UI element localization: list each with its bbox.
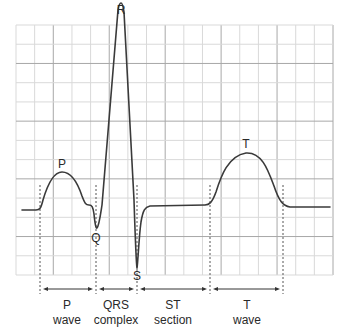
arrowhead-icon [213,287,218,291]
qrs-complex-label-line1: QRS [94,298,139,312]
p-wave-label-line1: P [53,298,81,312]
st-section-label-line2: section [154,313,192,327]
t-wave-label-line1: T [233,298,261,312]
ecg-trace [22,3,330,268]
peak-label-t: T [242,138,249,150]
st-section-label: STsection [154,298,192,327]
peak-label-p: P [58,158,66,170]
p-wave-label: Pwave [53,298,81,327]
ecg-grid-paper [16,25,333,275]
t-wave-label: Twave [233,298,261,327]
qrs-complex-label: QRScomplex [94,298,139,327]
t-wave-label-line2: wave [233,313,261,327]
arrowhead-icon [275,287,280,291]
arrowhead-icon [99,287,104,291]
arrowhead-icon [88,287,93,291]
ecg-diagram [0,0,350,335]
st-section-label-line1: ST [154,298,192,312]
arrowhead-icon [202,287,207,291]
arrowhead-icon [129,287,134,291]
p-wave-label-line2: wave [53,313,81,327]
segment-dividers [40,185,283,294]
peak-label-q: Q [91,232,100,244]
arrowhead-icon [140,287,145,291]
arrowhead-icon [43,287,48,291]
segment-arrows [43,287,280,291]
peak-label-r: R [117,4,126,16]
peak-label-s: S [133,270,141,282]
qrs-complex-label-line2: complex [94,313,139,327]
